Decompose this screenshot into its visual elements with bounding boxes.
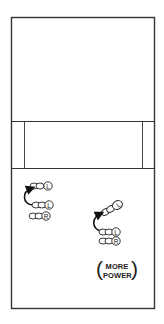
footprint-left-upper-angled: L — [100, 199, 124, 218]
foot-label-r: R — [44, 213, 49, 220]
footprint-left-middle: L — [99, 228, 120, 236]
foot-label-l: L — [114, 229, 118, 236]
more-power-label: ( MORE POWER ) — [96, 259, 138, 283]
court-diagram: L L R L — [0, 0, 164, 324]
footprint-right-foot: R — [29, 212, 50, 220]
movement-arrow — [94, 214, 101, 231]
footprint-left-upper: L — [30, 182, 52, 190]
movement-arrow — [24, 189, 33, 206]
close-paren: ) — [131, 257, 138, 281]
foot-label-r: R — [114, 238, 119, 245]
foot-label-l: L — [46, 183, 50, 190]
right-footwork-sequence: L L R — [94, 199, 124, 245]
foot-label-l: L — [47, 202, 51, 209]
footprint-right-foot: R — [99, 237, 120, 245]
footprint-left-middle: L — [32, 201, 53, 209]
label-line-power: POWER — [103, 271, 131, 280]
label-line-more: MORE — [103, 262, 131, 271]
open-paren: ( — [96, 257, 103, 281]
left-footwork-sequence: L L R — [24, 182, 53, 220]
